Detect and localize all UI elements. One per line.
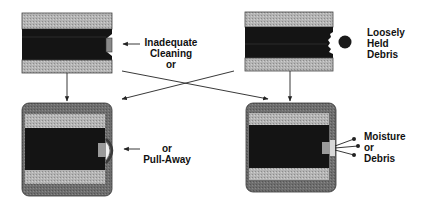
label-line: Moisture (364, 131, 406, 142)
label-line: Inadequate (143, 37, 199, 48)
label-loosely-held-debris: Loosely Held Debris (367, 27, 405, 60)
label-line: or (143, 59, 199, 70)
label-line: Debris (367, 49, 405, 60)
label-line: Cleaning (143, 48, 199, 59)
bottom-left-cross-section (22, 103, 112, 196)
top-right-cross-section (245, 12, 352, 71)
label-moisture-or-debris: Moisture or Debris (364, 131, 406, 164)
top-left-cross-section (22, 13, 112, 73)
arrow-top-left-to-bottom-right (122, 71, 268, 99)
arrow-top-right-to-bottom-left (122, 71, 234, 99)
label-line: or (364, 142, 406, 153)
residual-plug (106, 38, 112, 52)
label-line: Pull-Away (142, 154, 192, 165)
label-line: or (142, 143, 192, 154)
debris-particle (339, 36, 352, 49)
diagram-canvas (0, 0, 422, 206)
label-inadequate-cleaning: Inadequate Cleaning or (143, 37, 199, 70)
label-line: Held (367, 38, 405, 49)
label-line: Debris (364, 153, 406, 164)
label-line: Loosely (367, 27, 405, 38)
escape-spray (335, 139, 358, 155)
label-pull-away: or Pull-Away (142, 143, 192, 165)
bottom-right-cross-section (246, 103, 360, 192)
